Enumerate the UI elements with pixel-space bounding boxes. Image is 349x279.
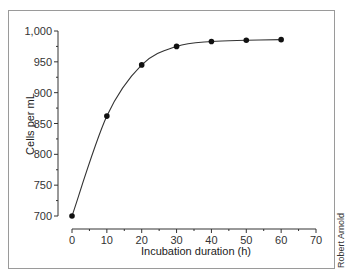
data-point bbox=[278, 37, 284, 43]
photo-credit: Robert Arnold bbox=[336, 213, 346, 268]
x-axis-title: Incubation duration (h) bbox=[141, 245, 251, 257]
data-point bbox=[209, 39, 215, 45]
data-point bbox=[243, 37, 249, 43]
data-point bbox=[139, 62, 145, 68]
data-point bbox=[104, 113, 110, 119]
data-point bbox=[174, 44, 180, 50]
x-tick-label: 70 bbox=[310, 234, 322, 246]
y-tick-label: 750 bbox=[34, 179, 52, 191]
x-tick-label: 0 bbox=[69, 234, 75, 246]
y-tick-label: 700 bbox=[34, 210, 52, 222]
data-point bbox=[69, 213, 75, 219]
series-line bbox=[72, 40, 281, 216]
line-chart: 7007508008509009501,000 010203040506070 … bbox=[0, 0, 349, 279]
y-tick-label: 800 bbox=[34, 148, 52, 160]
x-tick-label: 10 bbox=[101, 234, 113, 246]
y-tick-label: 850 bbox=[34, 118, 52, 130]
y-tick-label: 1,000 bbox=[24, 25, 52, 37]
x-tick-label: 60 bbox=[275, 234, 287, 246]
y-axis-title: Cells per mL bbox=[24, 93, 36, 155]
plot-area bbox=[69, 37, 284, 219]
y-tick-label: 950 bbox=[34, 56, 52, 68]
x-axis: 010203040506070 bbox=[69, 229, 322, 246]
y-tick-label: 900 bbox=[34, 87, 52, 99]
